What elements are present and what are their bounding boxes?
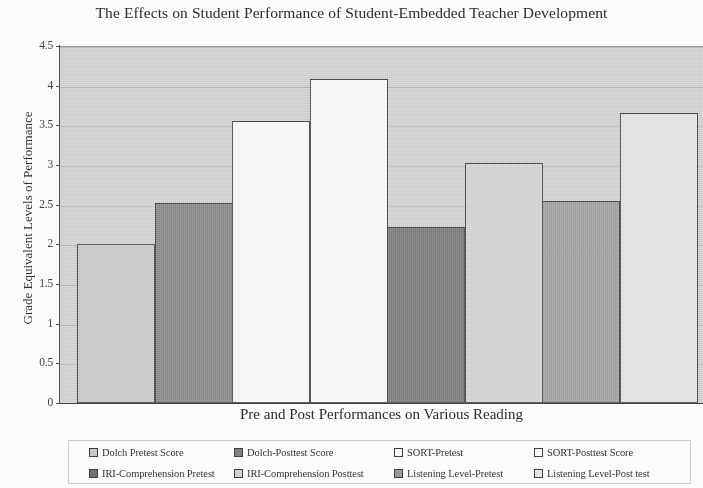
legend-swatch-icon xyxy=(234,469,243,478)
legend-swatch-icon xyxy=(89,469,98,478)
legend-item[interactable]: Listening Level-Pretest xyxy=(394,468,503,479)
x-axis-line xyxy=(59,403,703,404)
legend-item[interactable]: SORT-Pretest xyxy=(394,447,463,458)
bar xyxy=(542,201,620,403)
gridline xyxy=(60,47,703,48)
legend-swatch-icon xyxy=(234,448,243,457)
bar-texture xyxy=(621,114,697,402)
bar xyxy=(620,113,698,403)
legend-item[interactable]: Dolch-Posttest Score xyxy=(234,447,333,458)
bar-texture xyxy=(233,122,309,402)
bar xyxy=(232,121,310,403)
y-axis-title: Grade Equivalent Levels of Performance xyxy=(20,53,36,383)
chart-title: The Effects on Student Performance of St… xyxy=(0,4,703,22)
legend-row-1: Dolch Pretest ScoreDolch-Posttest ScoreS… xyxy=(69,442,690,463)
y-axis-line xyxy=(59,45,60,404)
legend-label: IRI-Comprehension Posttest xyxy=(247,468,364,479)
legend-label: SORT-Posttest Score xyxy=(547,447,633,458)
legend-row-2: IRI-Comprehension PretestIRI-Comprehensi… xyxy=(69,463,690,484)
legend-item[interactable]: SORT-Posttest Score xyxy=(534,447,633,458)
legend: Dolch Pretest ScoreDolch-Posttest ScoreS… xyxy=(68,440,691,484)
bar-texture xyxy=(156,204,232,402)
legend-label: Dolch Pretest Score xyxy=(102,447,184,458)
legend-label: Dolch-Posttest Score xyxy=(247,447,333,458)
bar xyxy=(77,244,155,403)
legend-label: Listening Level-Pretest xyxy=(407,468,503,479)
legend-item[interactable]: Listening Level-Post test xyxy=(534,468,650,479)
bar-texture xyxy=(78,245,154,402)
legend-label: SORT-Pretest xyxy=(407,447,463,458)
legend-label: Listening Level-Post test xyxy=(547,468,650,479)
legend-swatch-icon xyxy=(394,448,403,457)
bar xyxy=(387,227,465,403)
bar xyxy=(310,79,388,403)
bar-texture xyxy=(543,202,619,402)
legend-swatch-icon xyxy=(534,469,543,478)
x-axis-title: Pre and Post Performances on Various Rea… xyxy=(60,406,703,423)
bar-texture xyxy=(388,228,464,402)
legend-swatch-icon xyxy=(394,469,403,478)
y-tick-label: 0 xyxy=(7,396,53,408)
legend-swatch-icon xyxy=(534,448,543,457)
legend-item[interactable]: IRI-Comprehension Pretest xyxy=(89,468,215,479)
legend-swatch-icon xyxy=(89,448,98,457)
y-tick-label: 4.5 xyxy=(7,39,53,51)
legend-item[interactable]: Dolch Pretest Score xyxy=(89,447,184,458)
plot-area xyxy=(60,46,703,403)
bar-texture xyxy=(311,80,387,402)
legend-label: IRI-Comprehension Pretest xyxy=(102,468,215,479)
bar xyxy=(155,203,233,403)
bar-texture xyxy=(466,164,542,402)
bar xyxy=(465,163,543,403)
legend-item[interactable]: IRI-Comprehension Posttest xyxy=(234,468,364,479)
